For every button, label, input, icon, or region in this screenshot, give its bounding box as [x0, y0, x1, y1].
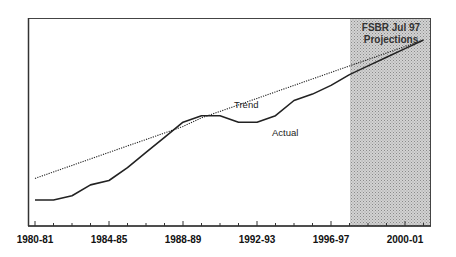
x-tick-label: 1996-97 — [313, 234, 350, 245]
projections-shaded-region — [350, 18, 431, 226]
x-tick-label: 1992-93 — [239, 234, 276, 245]
x-tick-label: 1980-81 — [17, 234, 54, 245]
projections-label-line2: Projections — [364, 34, 419, 45]
projections-label-line1: FSBR Jul 97 — [362, 22, 421, 33]
trend-annotation: Trend — [234, 99, 258, 110]
x-tick-label: 2000-01 — [387, 234, 424, 245]
x-tick-label: 1984-85 — [91, 234, 128, 245]
line-chart: Trend Actual FSBR Jul 97 Projections 198… — [0, 0, 456, 257]
actual-annotation: Actual — [272, 127, 298, 138]
x-tick-label: 1988-89 — [165, 234, 202, 245]
